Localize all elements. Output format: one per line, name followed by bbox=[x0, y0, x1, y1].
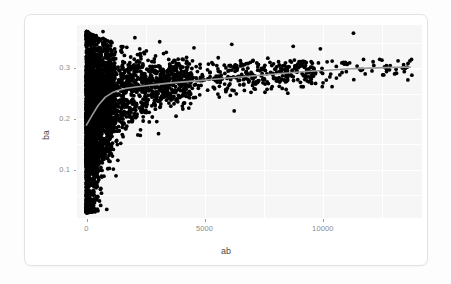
x-tick-mark bbox=[205, 219, 206, 222]
y-tick-label: 0.2 bbox=[24, 114, 70, 123]
y-tick-label: 0.1 bbox=[24, 165, 70, 174]
x-tick-mark bbox=[323, 219, 324, 222]
scatter-plot: 0.10.20.3 0500010000 ba ab bbox=[24, 14, 428, 266]
data-canvas bbox=[77, 25, 422, 218]
y-tick-mark bbox=[74, 170, 77, 171]
x-tick-label: 0 bbox=[84, 224, 88, 233]
scatter-layer bbox=[77, 25, 422, 218]
x-tick-label: 10000 bbox=[312, 224, 333, 233]
x-tick-mark bbox=[87, 219, 88, 222]
x-axis-label: ab bbox=[24, 246, 428, 256]
y-axis-label: ba bbox=[41, 130, 51, 139]
plot-panel bbox=[77, 25, 422, 218]
y-tick-label: 0.3 bbox=[24, 63, 70, 72]
x-tick-label: 5000 bbox=[196, 224, 213, 233]
screenshot-root: 0.10.20.3 0500010000 ba ab bbox=[0, 0, 451, 284]
data-points bbox=[85, 29, 414, 214]
y-tick-mark bbox=[74, 119, 77, 120]
y-tick-mark bbox=[74, 68, 77, 69]
